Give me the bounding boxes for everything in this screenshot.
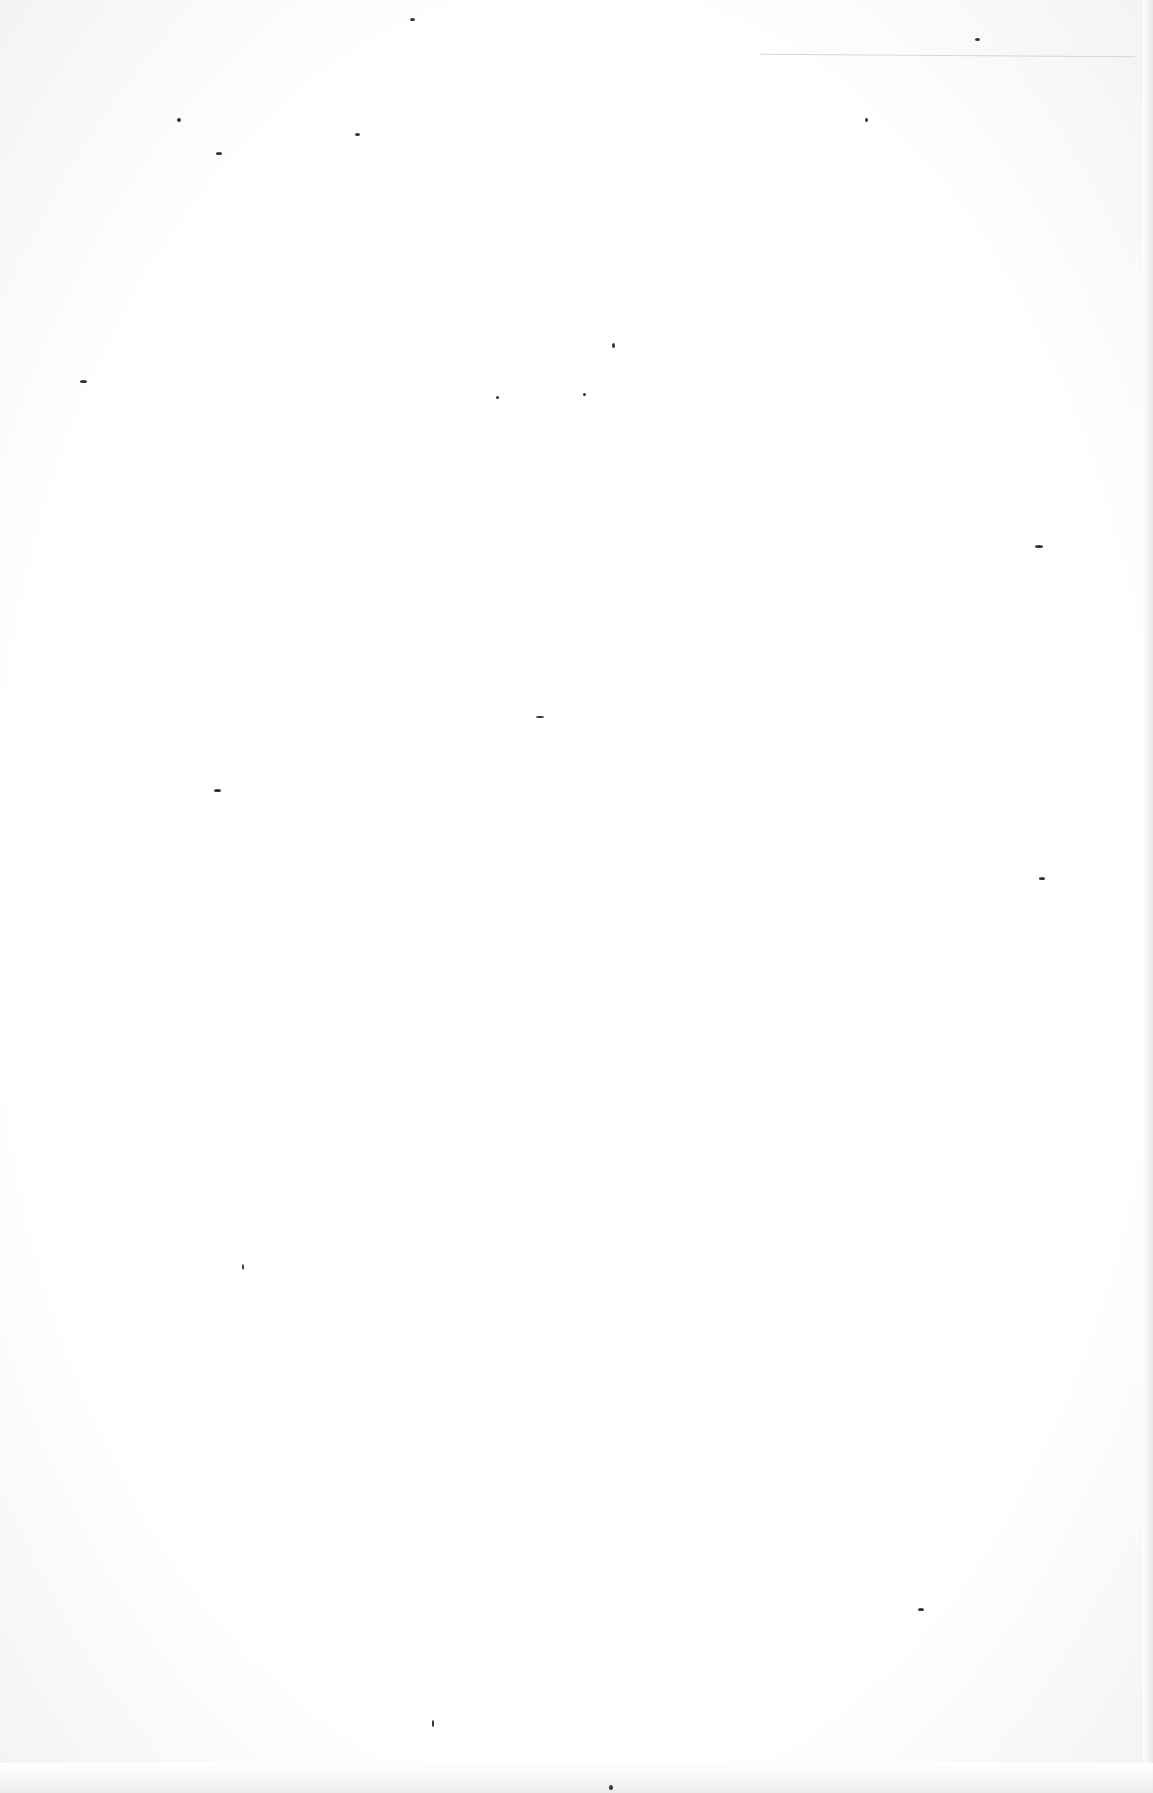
speck — [536, 716, 544, 718]
speck — [612, 343, 615, 348]
speck — [1039, 877, 1045, 880]
faint-horizontal-line — [760, 54, 1135, 58]
speck — [609, 1785, 613, 1790]
speck — [918, 1608, 924, 1611]
speck — [496, 396, 499, 399]
speck — [80, 380, 87, 383]
speck — [865, 118, 868, 122]
speck — [177, 118, 181, 122]
speck — [410, 18, 415, 21]
speck — [1035, 545, 1043, 548]
speck — [214, 789, 221, 792]
speck — [216, 152, 222, 155]
blank-page — [0, 0, 1153, 1793]
speck — [583, 393, 586, 396]
page-edge-shadow-bottom — [0, 1763, 1153, 1793]
speck — [975, 38, 980, 41]
speck — [355, 133, 360, 136]
speck — [242, 1264, 244, 1270]
page-edge-shadow-right — [1143, 0, 1153, 1793]
speck — [432, 1720, 434, 1727]
